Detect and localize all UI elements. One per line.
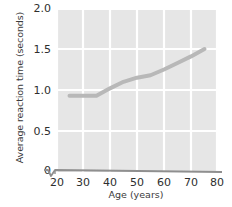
x-tick-label-80: 80: [210, 176, 224, 189]
plot-svg: [56, 8, 218, 172]
x-tick-label-20: 20: [50, 176, 64, 189]
x-axis-title: Age (years): [48, 189, 224, 200]
y-tick-label-2-0: 2.0: [34, 2, 52, 15]
x-tick-label-50: 50: [130, 176, 144, 189]
y-tick-label-0: 0: [44, 164, 51, 177]
x-tick-label-70: 70: [184, 176, 198, 189]
y-tick-label-0-5: 0.5: [34, 125, 52, 138]
y-tick-label-1-0: 1.0: [34, 84, 52, 97]
plot-area: [56, 8, 218, 172]
y-tick-label-1-5: 1.5: [34, 43, 52, 56]
x-tick-label-30: 30: [76, 176, 90, 189]
x-tick-label-40: 40: [103, 176, 117, 189]
x-tick-label-60: 60: [157, 176, 171, 189]
y-axis-tick-labels: 2.0 1.5 1.0 0.5 0: [0, 0, 56, 180]
reaction-time-line-chart: Average reaction time (seconds) 2.0 1.5 …: [0, 0, 232, 207]
